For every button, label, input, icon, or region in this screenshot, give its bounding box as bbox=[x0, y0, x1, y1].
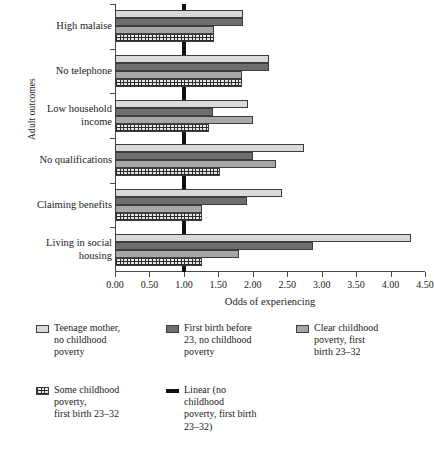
bar bbox=[115, 189, 282, 197]
x-axis-tick bbox=[149, 272, 150, 277]
reference-line-odds-1 bbox=[182, 4, 186, 272]
x-axis-tick bbox=[425, 272, 426, 277]
x-axis-tick-label: 4.50 bbox=[416, 279, 434, 290]
y-axis-category-label: Claiming benefits bbox=[14, 199, 112, 212]
legend-swatch-icon bbox=[166, 325, 179, 333]
y-axis-category-label: No qualifications bbox=[14, 154, 112, 167]
x-axis-tick bbox=[322, 272, 323, 277]
legend-item-label: Linear (no childhood poverty, first birt… bbox=[184, 384, 256, 433]
legend-swatch-icon bbox=[36, 387, 49, 395]
bar bbox=[115, 10, 243, 18]
bar bbox=[115, 124, 209, 132]
bar bbox=[115, 160, 276, 168]
legend-item-label: Clear childhood poverty, first birth 23–… bbox=[314, 322, 378, 359]
bar bbox=[115, 213, 202, 221]
bar bbox=[115, 79, 242, 87]
y-axis-category-label: Low household income bbox=[14, 103, 112, 128]
bar bbox=[115, 55, 269, 63]
bar bbox=[115, 234, 411, 242]
legend-item[interactable]: Linear (no childhood poverty, first birt… bbox=[166, 384, 290, 433]
bar-groups bbox=[115, 4, 425, 272]
y-axis-tick bbox=[110, 183, 115, 184]
legend-item[interactable]: Some childhood poverty, first birth 23–3… bbox=[36, 384, 160, 421]
bar bbox=[115, 63, 269, 71]
legend-item-label: Some childhood poverty, first birth 23–3… bbox=[54, 384, 119, 421]
bar bbox=[115, 18, 243, 26]
x-axis-tick-label: 3.50 bbox=[347, 279, 365, 290]
x-axis-tick bbox=[391, 272, 392, 277]
y-axis-category-labels: High malaiseNo telephoneLow household in… bbox=[14, 4, 112, 270]
bar bbox=[115, 152, 253, 160]
bar bbox=[115, 168, 220, 176]
x-axis-tick-label: 2.00 bbox=[244, 279, 262, 290]
bar bbox=[115, 250, 239, 258]
legend-swatch-icon bbox=[296, 325, 309, 333]
y-axis-category-label: High malaise bbox=[14, 20, 112, 33]
chart-legend: Teenage mother, no childhood povertyFirs… bbox=[0, 322, 432, 442]
x-axis-tick-label: 0.50 bbox=[141, 279, 159, 290]
legend-item-label: Teenage mother, no childhood poverty bbox=[54, 322, 120, 359]
x-axis-tick bbox=[115, 272, 116, 277]
y-axis-tick bbox=[110, 93, 115, 94]
bar bbox=[115, 205, 202, 213]
bar bbox=[115, 197, 247, 205]
x-axis-tick-label: 1.50 bbox=[210, 279, 228, 290]
legend-item-label: First birth before 23, no childhood pove… bbox=[184, 322, 252, 359]
legend-item[interactable]: First birth before 23, no childhood pove… bbox=[166, 322, 290, 359]
figure-caption bbox=[0, 444, 432, 454]
bar bbox=[115, 71, 242, 79]
x-axis-tick-label: 1.00 bbox=[175, 279, 193, 290]
x-axis-tick-label: 2.50 bbox=[278, 279, 296, 290]
x-axis-tick bbox=[218, 272, 219, 277]
y-axis-tick bbox=[110, 4, 115, 5]
plot-area: Adult outcomes High malaiseNo telephoneL… bbox=[0, 0, 432, 300]
y-axis-tick bbox=[110, 49, 115, 50]
y-axis-tick bbox=[110, 138, 115, 139]
bar bbox=[115, 100, 248, 108]
x-axis-tick bbox=[356, 272, 357, 277]
x-axis-tick-label: 0.00 bbox=[106, 279, 124, 290]
y-axis-tick bbox=[110, 227, 115, 228]
x-axis-title: Odds of experiencing bbox=[115, 296, 425, 307]
legend-item[interactable]: Teenage mother, no childhood poverty bbox=[36, 322, 160, 359]
x-axis-tick bbox=[287, 272, 288, 277]
bar bbox=[115, 242, 313, 250]
bar bbox=[115, 108, 213, 116]
legend-swatch-icon bbox=[36, 325, 49, 333]
legend-swatch-icon bbox=[166, 389, 179, 393]
bar bbox=[115, 144, 304, 152]
x-axis-tick-label: 4.00 bbox=[382, 279, 400, 290]
x-axis-tick-label: 3.00 bbox=[313, 279, 331, 290]
bar bbox=[115, 26, 214, 34]
bar bbox=[115, 34, 214, 42]
legend-item[interactable]: Clear childhood poverty, first birth 23–… bbox=[296, 322, 420, 359]
x-axis-tick bbox=[184, 272, 185, 277]
y-axis-category-label: No telephone bbox=[14, 65, 112, 78]
x-axis-tick bbox=[253, 272, 254, 277]
y-axis-category-label: Living in social housing bbox=[14, 237, 112, 262]
bar bbox=[115, 116, 253, 124]
bar bbox=[115, 258, 202, 266]
